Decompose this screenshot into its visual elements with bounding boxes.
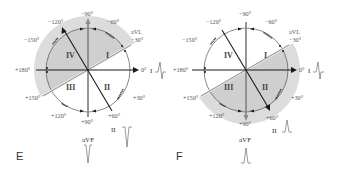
angle-label-minus120: −120° xyxy=(48,18,64,25)
angle-label-minus60: −60° xyxy=(107,18,120,25)
lead-ii-label: II xyxy=(111,126,116,134)
lead-avf-waveform xyxy=(241,148,251,163)
angle-label-zero: 0° xyxy=(299,66,305,73)
hexaxial-panel-f: ▪▪▪▪▪▪ ▪▪▪▪▪ ▪▪▪▪▪▪▪ ▪▪▪▪ IV I III II −9… xyxy=(166,0,334,175)
hexaxial-diagram-e: ▪▪▪▪▪▪ ▪▪▪▪▪ ▪▪▪▪▪▪▪ ▪▪▪▪ IV I III II −9… xyxy=(0,0,168,175)
angle-label-minus90: −90° xyxy=(81,10,94,17)
quadrant-ii-label: II xyxy=(104,83,110,92)
angle-label-minus120: −120° xyxy=(206,18,222,25)
quadrant-ii-label: II xyxy=(262,83,268,92)
arc-note-upper-left: ▪▪▪▪▪ xyxy=(209,37,217,46)
panel-letter-e: E xyxy=(16,150,23,162)
lead-i-label: I xyxy=(308,67,311,75)
angle-label-minus90: −90° xyxy=(239,10,252,17)
angle-label-minus30: −30° xyxy=(131,36,144,43)
lead-avl-label: aVL xyxy=(131,28,142,35)
panel-letter-f: F xyxy=(176,150,183,162)
arc-note-lower-left: ▪▪▪▪ xyxy=(61,102,69,108)
angle-label-minus30: −30° xyxy=(289,36,302,43)
angle-label-minus60: −60° xyxy=(265,18,278,25)
lead-ii-waveform xyxy=(282,120,292,132)
lead-ii-label: II xyxy=(272,127,277,135)
hexaxial-panel-e: ▪▪▪▪▪▪ ▪▪▪▪▪ ▪▪▪▪▪▪▪ ▪▪▪▪ IV I III II −9… xyxy=(0,0,168,175)
lead-avf-label: aVF xyxy=(239,136,251,144)
lead-i-label: I xyxy=(150,67,153,75)
lead-i-axis-arrow xyxy=(133,67,139,73)
angle-label-plus180: +180° xyxy=(15,66,31,73)
angle-label-zero: 0° xyxy=(141,66,147,73)
arc-note-upper-right: ▪▪▪▪▪▪ xyxy=(262,31,273,40)
arc-note-lower-right: ▪▪▪▪▪▪▪ xyxy=(116,88,125,100)
angle-label-plus120: +120° xyxy=(209,112,225,119)
angle-label-plus30: +30° xyxy=(133,94,146,101)
angle-label-plus60: +60° xyxy=(108,112,121,119)
angle-label-plus30: +30° xyxy=(291,94,304,101)
hexaxial-diagram-f: ▪▪▪▪▪▪ ▪▪▪▪▪ ▪▪▪▪▪▪▪ ▪▪▪▪ IV I III II −9… xyxy=(166,0,337,175)
angle-label-plus90: +90° xyxy=(81,118,94,125)
angle-label-plus180: +180° xyxy=(173,66,189,73)
lead-avf-label: aVF xyxy=(82,136,94,144)
quadrant-iii-label: III xyxy=(224,83,233,92)
quadrant-iv-label: IV xyxy=(66,51,75,60)
angle-label-plus90: +90° xyxy=(239,120,252,127)
angle-label-plus120: +120° xyxy=(51,112,67,119)
angle-label-minus150: −150° xyxy=(24,36,40,43)
angle-label-plus150: +150° xyxy=(183,94,199,101)
angle-label-minus150: −150° xyxy=(182,36,198,43)
angle-label-plus150: +150° xyxy=(25,94,41,101)
lead-i-waveform xyxy=(155,62,166,79)
quadrant-iv-label: IV xyxy=(224,51,233,60)
angle-label-plus60: +60° xyxy=(266,114,279,121)
quadrant-i-label: I xyxy=(264,51,267,60)
quadrant-i-label: I xyxy=(106,51,109,60)
lead-avl-label: aVL xyxy=(289,28,300,35)
quadrant-iii-label: III xyxy=(66,83,75,92)
lead-i-waveform xyxy=(313,62,324,79)
lead-avf-waveform xyxy=(84,145,92,163)
lead-ii-waveform xyxy=(122,127,132,147)
